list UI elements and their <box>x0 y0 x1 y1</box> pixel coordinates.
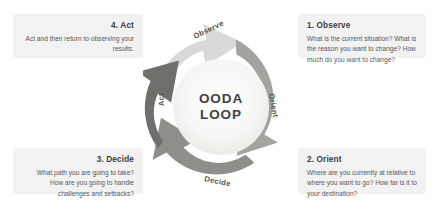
card-observe-title: 1. Observe <box>307 20 417 31</box>
inner-circle <box>173 59 269 155</box>
card-orient-body: Where are you currently at relative to w… <box>307 168 417 200</box>
arc-label-act: Act <box>156 93 166 107</box>
card-observe: 1. Observe What is the current situation… <box>298 14 426 58</box>
card-decide-body: What path you are going to take? How are… <box>22 168 134 200</box>
card-orient: 2. Orient Where are you currently at rel… <box>298 148 426 194</box>
card-orient-title: 2. Orient <box>307 154 417 165</box>
card-act: 4. Act Act and then return to observing … <box>13 14 143 58</box>
ooda-loop-diagram: 4. Act Act and then return to observing … <box>0 0 433 212</box>
card-decide-title: 3. Decide <box>22 154 134 165</box>
card-act-title: 4. Act <box>22 20 134 31</box>
card-act-body: Act and then return to observing your re… <box>22 34 134 55</box>
card-observe-body: What is the current situation? What is t… <box>307 34 417 66</box>
card-decide: 3. Decide What path you are going to tak… <box>13 148 143 194</box>
loop-graphic: Observe Orient Decide Act OODA LOOP <box>143 10 299 204</box>
arc-label-decide: Decide <box>204 174 232 188</box>
